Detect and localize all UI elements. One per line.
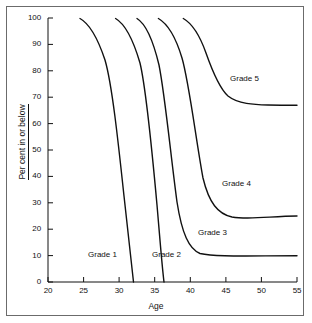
x-tick-label-50: 50 <box>250 287 272 295</box>
chart-figure: 100 90 80 70 60 50 40 30 20 10 0 20 25 3… <box>0 0 312 323</box>
curve-label-grade-5: Grade 5 <box>230 74 259 83</box>
y-axis-ticks <box>48 18 53 282</box>
curve-grade-3 <box>137 19 297 256</box>
curve-grade-5 <box>183 19 297 106</box>
x-tick-label-45: 45 <box>215 287 237 295</box>
y-tick-label-0: 0 <box>19 278 41 286</box>
y-tick-label-100: 100 <box>19 14 41 22</box>
curve-label-grade-1: Grade 1 <box>88 250 117 259</box>
x-tick-label-20: 20 <box>37 287 59 295</box>
x-axis-ticks <box>48 277 297 282</box>
y-tick-label-20: 20 <box>19 225 41 233</box>
curve-grade-1 <box>80 19 134 283</box>
y-axis-title-container: Per cent in or below <box>11 72 33 212</box>
curve-label-grade-2: Grade 2 <box>152 250 181 259</box>
x-tick-label-55: 55 <box>286 287 308 295</box>
plot-area <box>0 0 312 323</box>
y-axis-title: Per cent in or below <box>17 104 29 179</box>
curve-grade-4 <box>158 19 297 219</box>
x-tick-label-25: 25 <box>73 287 95 295</box>
curve-label-grade-3: Grade 3 <box>198 228 227 237</box>
axis-lines <box>48 18 297 282</box>
curve-label-grade-4: Grade 4 <box>222 179 251 188</box>
y-tick-label-10: 10 <box>19 252 41 260</box>
x-tick-label-35: 35 <box>144 287 166 295</box>
y-tick-label-90: 90 <box>19 40 41 48</box>
x-axis-title: Age <box>0 301 312 311</box>
x-tick-label-30: 30 <box>108 287 130 295</box>
x-tick-label-40: 40 <box>179 287 201 295</box>
